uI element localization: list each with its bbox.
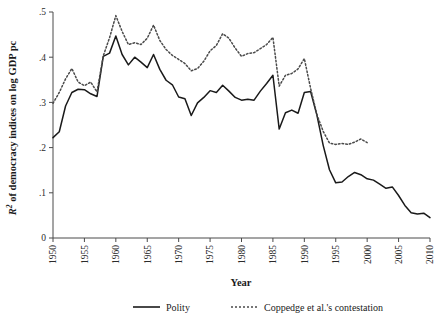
y-axis-ticks: 0.1.2.3.4.5 (39, 7, 53, 243)
chart-series-group (53, 16, 430, 218)
y-tick-label: .5 (39, 7, 46, 17)
chart-plot-area: 0.1.2.3.4.5 1950195519601965197019751980… (0, 0, 437, 321)
x-tick-label: 1995 (331, 245, 341, 264)
x-tick-label: 2000 (363, 245, 373, 264)
x-tick-label: 2010 (425, 245, 435, 264)
chart-figure: 0.1.2.3.4.5 1950195519601965197019751980… (0, 0, 437, 321)
y-tick-label: .1 (39, 188, 46, 198)
series-line-polity (53, 36, 430, 218)
x-tick-label: 1980 (237, 245, 247, 264)
x-tick-label: 1990 (300, 245, 310, 264)
chart-legend: Polity Coppedge et al.'s contestation (133, 302, 383, 313)
x-tick-label: 1985 (268, 245, 278, 264)
y-tick-label: .2 (39, 143, 46, 153)
legend-label-coppedge: Coppedge et al.'s contestation (264, 302, 383, 313)
y-tick-label: 0 (41, 233, 46, 243)
x-tick-label: 2005 (394, 245, 404, 264)
x-tick-label: 1960 (111, 245, 121, 264)
y-tick-label: .3 (39, 98, 46, 108)
x-tick-label: 1955 (80, 245, 90, 264)
x-axis-ticks: 1950195519601965197019751980198519901995… (48, 238, 435, 264)
legend-label-polity: Polity (166, 302, 190, 313)
x-tick-label: 1950 (48, 245, 58, 264)
svg-text:R2 of democracy indices on log: R2 of democracy indices on log GDP pc (5, 40, 19, 216)
x-tick-label: 1970 (174, 245, 184, 264)
y-axis-label: R2 of democracy indices on log GDP pc (5, 40, 19, 216)
y-tick-label: .4 (39, 53, 46, 63)
x-tick-label: 1975 (205, 245, 215, 264)
x-axis-title: Year (231, 277, 252, 288)
x-tick-label: 1965 (143, 245, 153, 264)
